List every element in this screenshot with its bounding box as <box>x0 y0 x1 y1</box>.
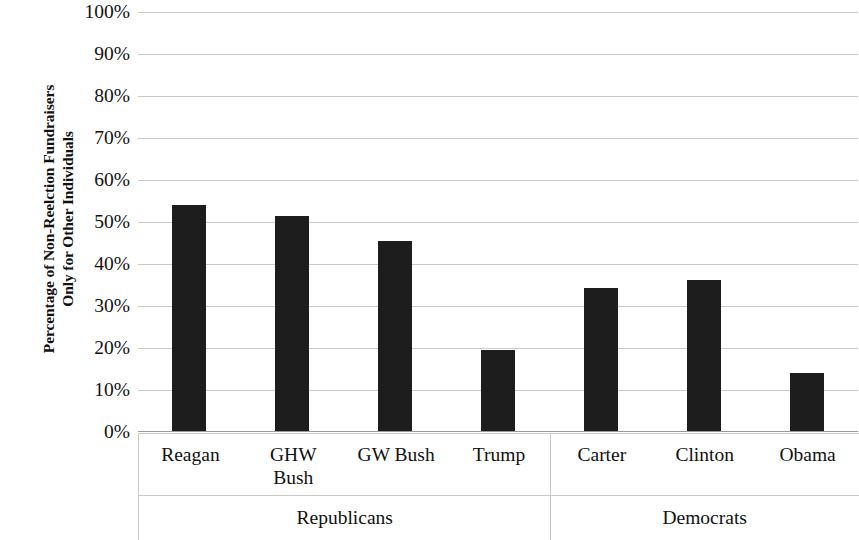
category-label-band: ReaganGHWBushGW BushTrumpCarterClintonOb… <box>138 433 859 496</box>
category-label: Clinton <box>653 434 756 496</box>
bar <box>584 288 618 432</box>
y-axis-tick-label: 0% <box>48 422 130 442</box>
category-label-line-2: Bush <box>242 466 345 489</box>
y-axis-tick-label: 100% <box>48 2 130 22</box>
y-axis-tick-label: 50% <box>48 212 130 232</box>
bar <box>790 373 824 432</box>
category-label-line-1: Reagan <box>139 443 242 466</box>
group-label: Republicans <box>139 496 550 540</box>
category-label-line-1: Obama <box>756 443 859 466</box>
y-axis-tick-label: 20% <box>48 338 130 358</box>
y-axis-tick-label: 40% <box>48 254 130 274</box>
category-label: Trump <box>448 434 551 496</box>
y-axis-tick-label: 80% <box>48 86 130 106</box>
category-label-line-1: Carter <box>550 443 653 466</box>
y-axis-tick-label: 30% <box>48 296 130 316</box>
bar <box>172 205 206 432</box>
category-label: GHWBush <box>242 434 345 496</box>
y-axis-tick-label: 10% <box>48 380 130 400</box>
category-label: Obama <box>756 434 859 496</box>
category-label: Carter <box>550 434 653 496</box>
y-axis-tick-labels: 100%90%80%70%60%50%40%30%20%10%0% <box>48 0 130 444</box>
y-axis-tick-label: 60% <box>48 170 130 190</box>
x-axis-baseline <box>138 431 858 432</box>
bar <box>275 216 309 432</box>
bar <box>481 350 515 432</box>
group-label-band: RepublicansDemocrats <box>138 495 859 540</box>
y-axis-tick-label: 70% <box>48 128 130 148</box>
category-label: GW Bush <box>345 434 448 496</box>
y-axis-tick-label: 90% <box>48 44 130 64</box>
category-label: Reagan <box>139 434 242 496</box>
bars-layer <box>138 12 858 432</box>
plot-area <box>138 12 858 432</box>
category-label-line-1: GW Bush <box>345 443 448 466</box>
category-label-line-1: GHW <box>242 443 345 466</box>
bar <box>687 280 721 432</box>
bar <box>378 241 412 432</box>
category-label-line-1: Trump <box>448 443 551 466</box>
category-label-line-1: Clinton <box>653 443 756 466</box>
group-label: Democrats <box>550 496 859 540</box>
